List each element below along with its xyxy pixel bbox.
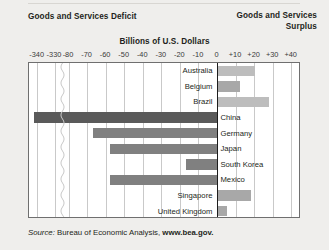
x-tick-label: -70: [81, 50, 92, 59]
bar-united-kingdom[interactable]: [217, 206, 226, 216]
top-divider: [28, 3, 300, 4]
bar-row: Australia: [29, 63, 299, 79]
x-tick-label: 0: [214, 50, 218, 59]
bar-row: China: [29, 110, 299, 126]
bar-australia[interactable]: [217, 66, 254, 76]
source-url[interactable]: www.bea.gov.: [162, 228, 213, 237]
source-label: Source:: [28, 228, 55, 237]
category-label-united-kingdom: United Kingdom: [158, 206, 213, 217]
bar-row: United Kingdom: [29, 203, 299, 218]
bar-row: Belgium: [29, 79, 299, 95]
x-tick-label: -40: [137, 50, 148, 59]
x-axis-tick-labels: -340-330-80-70-60-50-40-30-20-100+10+20+…: [28, 50, 300, 62]
x-tick-label: -80: [63, 50, 74, 59]
axis-break-icon: [59, 63, 66, 217]
category-label-australia: Australia: [183, 65, 213, 76]
x-tick-label: -50: [118, 50, 129, 59]
chart-plot-area: -340-330-80-70-60-50-40-30-20-100+10+20+…: [28, 50, 300, 218]
category-label-belgium: Belgium: [185, 81, 213, 92]
category-label-singapore: Singapore: [177, 190, 212, 201]
category-label-mexico: Mexico: [220, 174, 244, 185]
axis-title: Billions of U.S. Dollars: [0, 37, 329, 46]
category-label-japan: Japan: [220, 143, 241, 154]
bar-mexico[interactable]: [110, 175, 218, 185]
bar-row: Japan: [29, 141, 299, 157]
x-tick-label: -10: [193, 50, 204, 59]
bar-row: Brazil: [29, 94, 299, 110]
surplus-header: Goods and Services Surplus: [225, 11, 317, 32]
chart-canvas: AustraliaBelgiumBrazilChinaGermanyJapanS…: [28, 62, 300, 218]
bar-row: South Korea: [29, 157, 299, 173]
x-tick-label: -60: [100, 50, 111, 59]
bar-row: Mexico: [29, 172, 299, 188]
bar-south-korea[interactable]: [186, 159, 218, 169]
x-tick-label: -30: [155, 50, 166, 59]
x-tick-label: +10: [229, 50, 242, 59]
category-label-china: China: [220, 112, 240, 123]
bar-germany[interactable]: [93, 128, 217, 138]
x-tick-label: +20: [247, 50, 260, 59]
x-tick-label: +30: [266, 50, 279, 59]
deficit-header: Goods and Services Deficit: [28, 12, 137, 21]
category-label-germany: Germany: [220, 128, 252, 139]
bar-singapore[interactable]: [217, 190, 250, 200]
source-agency: Bureau of Economic Analysis,: [55, 228, 162, 237]
x-tick-label: -340: [29, 50, 44, 59]
bar-row: Germany: [29, 125, 299, 141]
zero-axis-line: [217, 63, 218, 217]
bar-belgium[interactable]: [217, 81, 239, 91]
category-label-brazil: Brazil: [193, 96, 212, 107]
source-note: Source: Bureau of Economic Analysis, www…: [28, 228, 213, 237]
x-tick-label: -330: [47, 50, 62, 59]
bar-row: Singapore: [29, 188, 299, 204]
category-label-south-korea: South Korea: [220, 159, 263, 170]
surplus-header-line1: Goods and Services: [236, 11, 317, 20]
surplus-header-line2: Surplus: [286, 22, 317, 31]
bar-japan[interactable]: [110, 144, 218, 154]
bar-brazil[interactable]: [217, 97, 269, 107]
x-tick-label: -20: [174, 50, 185, 59]
x-tick-label: +40: [284, 50, 297, 59]
